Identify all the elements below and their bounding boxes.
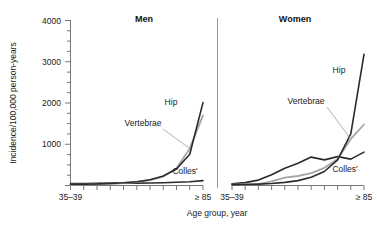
women-label-hip: Hip (333, 65, 346, 75)
chart-canvas: 4000 3000 2000 1000 Incidence/100,000 pe… (0, 0, 377, 233)
y-tick-label-3000: 3000 (42, 57, 61, 67)
women-leader-vertebrae (327, 107, 350, 138)
women-series-vertebrae (232, 125, 364, 185)
men-label-colles: Colles' (172, 166, 198, 176)
y-tick-label-4000: 4000 (42, 16, 61, 26)
x-axis-label: Age group, year (187, 208, 248, 218)
y-axis: 4000 3000 2000 1000 Incidence/100,000 pe… (8, 16, 71, 186)
women-x-ticks (232, 186, 364, 191)
women-label-vertebrae: Vertebrae (288, 96, 325, 106)
panel-women: Women 35–39 ≥ 85 (220, 14, 372, 202)
fracture-incidence-figure: 4000 3000 2000 1000 Incidence/100,000 pe… (0, 0, 377, 233)
panel-men: Men 35–39 ≥ 85 (59, 14, 212, 202)
panel-men-title: Men (135, 14, 153, 24)
y-tick-label-2000: 2000 (42, 98, 61, 108)
men-label-hip: Hip (165, 97, 178, 107)
women-x-end-label: ≥ 85 (356, 192, 373, 202)
y-axis-label: Incidence/100,000 person-years (8, 42, 18, 163)
men-x-end-label: ≥ 85 (195, 192, 212, 202)
women-label-colles: Colles' (332, 164, 358, 174)
panel-women-title: Women (279, 14, 311, 24)
men-x-ticks (71, 186, 204, 191)
y-tick-label-1000: 1000 (42, 139, 61, 149)
women-x-start-label: 35–39 (220, 192, 244, 202)
men-x-start-label: 35–39 (59, 192, 83, 202)
men-leader-vertebrae (163, 129, 189, 148)
men-label-vertebrae: Vertebrae (125, 118, 162, 128)
